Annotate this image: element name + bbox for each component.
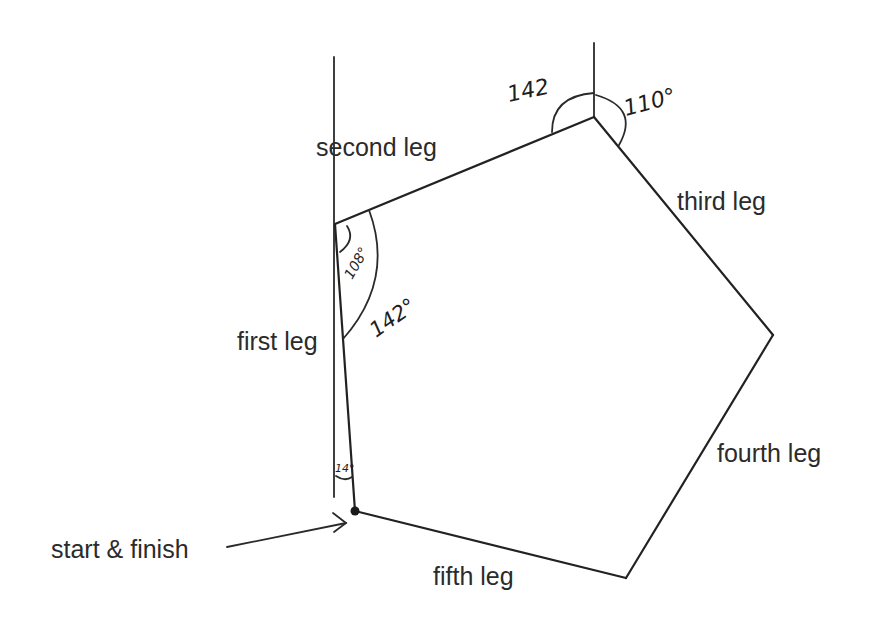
bearing-diagram: 142 110° 108° 142° 14° second leg third … bbox=[0, 0, 886, 619]
start-arrow-head-icon bbox=[333, 513, 346, 532]
third-leg-line bbox=[594, 117, 773, 335]
angle-label-110: 110° bbox=[621, 83, 679, 121]
angle-label-142-side: 142° bbox=[365, 293, 420, 342]
start-point-dot bbox=[351, 507, 360, 516]
start-arrow-shaft bbox=[227, 523, 346, 547]
third-leg-label: third leg bbox=[677, 187, 766, 215]
angle-arc-108 bbox=[340, 226, 350, 252]
fifth-leg-label: fifth leg bbox=[433, 562, 514, 590]
angle-label-start: 14° bbox=[335, 462, 355, 475]
angle-label-108: 108° bbox=[341, 244, 372, 281]
diagram-canvas: 142 110° 108° 142° 14° second leg third … bbox=[0, 0, 886, 619]
second-leg-label: second leg bbox=[316, 133, 437, 161]
fourth-leg-label: fourth leg bbox=[717, 439, 821, 467]
start-finish-label: start & finish bbox=[51, 535, 189, 563]
angle-arc-start bbox=[336, 476, 352, 479]
angle-label-142-top: 142 bbox=[505, 74, 551, 107]
first-leg-label: first leg bbox=[237, 327, 318, 355]
